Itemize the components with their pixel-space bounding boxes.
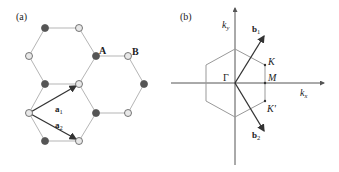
- a1-label: a1: [55, 104, 63, 115]
- atom-b: [76, 138, 83, 145]
- atoms: [26, 25, 148, 145]
- atom-b: [76, 81, 83, 88]
- panel-a-label: (a): [16, 11, 27, 23]
- k-prime-label: K': [266, 103, 277, 114]
- figure: (a) A B a1: [0, 0, 339, 172]
- kx-label: kx: [300, 87, 307, 99]
- b1-arrow: [235, 36, 264, 83]
- b2-arrow: [235, 83, 264, 131]
- gamma-label: Γ: [223, 72, 229, 83]
- m-point: [264, 82, 266, 84]
- panel-b-label: (b): [180, 11, 192, 23]
- ky-label: ky: [222, 19, 229, 31]
- site-a-label: A: [99, 45, 107, 56]
- panel-b: (b) Γ K M K' kx ky b1 b2: [171, 8, 324, 165]
- b2-label: b2: [252, 130, 260, 141]
- atom-b: [125, 53, 132, 60]
- atom-b: [26, 53, 33, 60]
- atom-a: [42, 138, 49, 145]
- panel-a: (a) A B a1: [16, 11, 148, 145]
- a2-label: a2: [55, 120, 63, 131]
- site-b-label: B: [132, 46, 139, 57]
- atom-b: [26, 110, 33, 117]
- m-label: M: [267, 72, 277, 83]
- atom-b: [125, 110, 132, 117]
- atom-b: [76, 25, 83, 32]
- k-label: K: [267, 56, 276, 67]
- lattice-vectors: [29, 86, 76, 139]
- atom-a: [42, 25, 49, 32]
- k-prime-point: [264, 100, 266, 102]
- atom-a: [93, 110, 100, 117]
- b1-label: b1: [252, 24, 260, 35]
- atom-a: [42, 81, 49, 88]
- atom-a: [141, 81, 148, 88]
- k-point: [264, 64, 266, 66]
